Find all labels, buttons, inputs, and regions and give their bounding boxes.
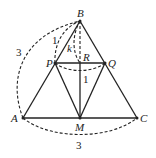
- arc-BR-k: [74, 21, 80, 63]
- point-M: [79, 117, 82, 120]
- label-arc-AB: 3: [16, 46, 22, 58]
- point-A: [22, 117, 25, 120]
- label-R: R: [82, 51, 90, 63]
- point-Q: [104, 62, 107, 65]
- label-arc-PQ: 1: [83, 73, 89, 85]
- geometry-diagram: B P Q R A M C 3 3 1 1 k: [0, 0, 156, 158]
- label-P: P: [45, 57, 53, 69]
- edge-QM: [80, 63, 105, 118]
- edge-PM: [55, 63, 80, 118]
- point-B: [79, 20, 82, 23]
- label-A: A: [10, 112, 18, 124]
- label-M: M: [74, 121, 85, 133]
- label-arc-BP: 1: [52, 34, 58, 46]
- label-arc-AC: 3: [76, 139, 82, 151]
- label-C: C: [140, 112, 148, 124]
- point-C: [136, 117, 139, 120]
- point-P: [54, 62, 57, 65]
- label-Q: Q: [108, 57, 116, 69]
- label-angle-k: k: [67, 42, 73, 54]
- label-B: B: [77, 7, 84, 19]
